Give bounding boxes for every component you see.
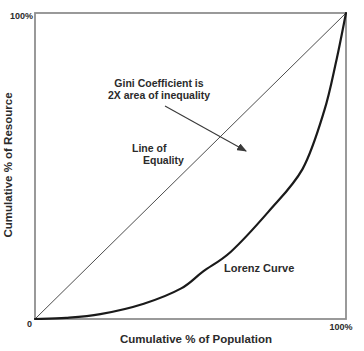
- gini-annotation-line2: 2X area of inequality: [108, 89, 210, 101]
- annotation-arrow: [165, 106, 246, 151]
- lorenz-curve-figure: 100% 0 100% Cumulative % of Population C…: [0, 0, 364, 351]
- y-axis-label: Cumulative % of Resource: [2, 92, 14, 237]
- chart-canvas: 100% 0 100% Cumulative % of Population C…: [0, 0, 364, 351]
- gini-annotation-line1: Gini Coefficient is: [114, 77, 203, 89]
- x-axis-label: Cumulative % of Population: [120, 333, 272, 345]
- lorenz-curve-label: Lorenz Curve: [224, 262, 294, 274]
- equality-label-line1: Line of: [132, 142, 167, 154]
- origin-tick: 0: [27, 319, 32, 329]
- equality-label-line2: Equality: [143, 154, 184, 166]
- y-axis-top-tick: 100%: [10, 11, 33, 21]
- x-axis-right-tick: 100%: [329, 322, 352, 332]
- line-of-equality: [35, 13, 346, 319]
